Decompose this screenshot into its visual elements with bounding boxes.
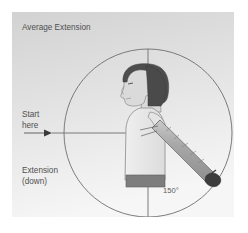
extension-label-line1: Extension: [22, 166, 58, 175]
shirt-waistband: [126, 175, 165, 187]
start-label-line2: here: [22, 121, 39, 130]
panel-title: Average Extension: [22, 23, 91, 32]
start-label-line1: Start: [22, 110, 40, 119]
angle-label: 150°: [163, 186, 179, 195]
extension-range-of-motion-diagram: Average Extension Start here Extension (…: [0, 0, 248, 233]
diagram-container: Average Extension Start here Extension (…: [0, 0, 248, 233]
extension-label-line2: (down): [22, 177, 47, 186]
background-panel: [12, 12, 234, 217]
